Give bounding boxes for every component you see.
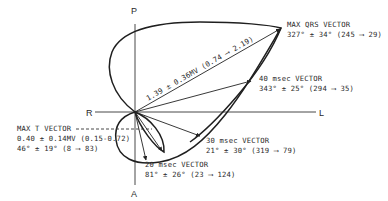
- max-qrs-magnitude: 1.39 ± 0.36MV (0.74 ⟶ 2.19): [145, 34, 256, 103]
- diagram-svg: P A R L 1.39 ± 0.36MV (0.74 ⟶ 2.19) MAX …: [0, 0, 388, 201]
- axis-label-p: P: [131, 6, 137, 16]
- axis-label-r: R: [86, 108, 93, 118]
- ms20-angle: 81° ± 26° (23 ⟶ 124): [145, 170, 236, 179]
- max-t-title: MAX T VECTOR: [17, 124, 72, 133]
- axis-label-l: L: [319, 108, 324, 118]
- max-qrs-angle: 327° ± 34° (245 ⟶ 29): [287, 30, 382, 39]
- max-qrs-vector-arrow: [135, 29, 280, 112]
- ms40-angle: 343° ± 25° (294 ⟶ 35): [259, 84, 354, 93]
- ms20-title: 20 msec VECTOR: [145, 160, 209, 169]
- ms40-title: 40 msec VECTOR: [259, 74, 323, 83]
- max-qrs-title: MAX QRS VECTOR: [287, 20, 351, 29]
- max-t-angle: 46° ± 19° (8 ⟶ 83): [17, 144, 99, 153]
- vectorcardiogram-diagram: P A R L 1.39 ± 0.36MV (0.74 ⟶ 2.19) MAX …: [0, 0, 388, 201]
- axis-label-a: A: [131, 189, 137, 199]
- ms30-title: 30 msec VECTOR: [206, 136, 270, 145]
- max-t-magnitude: 0.40 ± 0.14MV (0.15-0.72): [17, 134, 130, 143]
- ms30-angle: 21° ± 30° (319 ⟶ 79): [206, 146, 297, 155]
